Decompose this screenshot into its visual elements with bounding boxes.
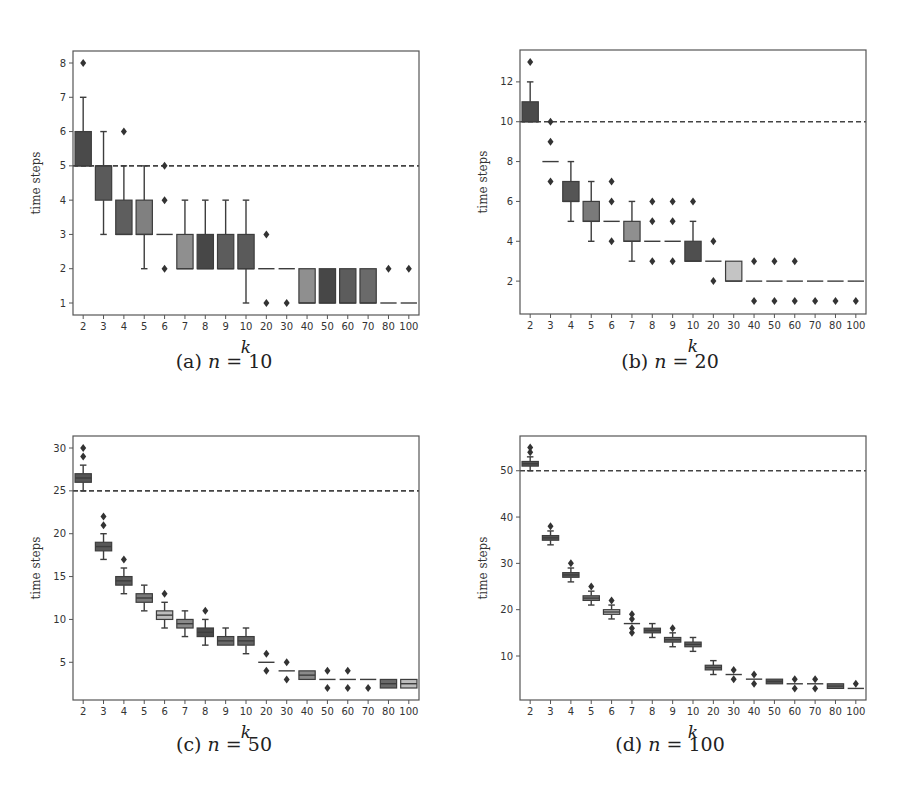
outlier-marker xyxy=(812,675,818,683)
x-tick-label: 30 xyxy=(727,706,740,717)
x-tick-label: 6 xyxy=(608,706,614,717)
y-axis-label: time steps xyxy=(29,152,43,215)
box-k-30 xyxy=(726,666,742,683)
x-tick-label: 7 xyxy=(629,706,635,717)
x-tick-label: 9 xyxy=(669,706,675,717)
y-tick-label: 4 xyxy=(60,195,66,206)
box-k-50 xyxy=(319,667,335,692)
outlier-marker xyxy=(162,196,168,204)
outlier-marker xyxy=(792,684,798,692)
outlier-marker xyxy=(670,257,676,265)
outlier-marker xyxy=(670,624,676,632)
x-tick-label: 40 xyxy=(748,706,761,717)
outlier-marker xyxy=(609,237,615,245)
x-tick-label: 9 xyxy=(669,320,675,331)
outlier-marker xyxy=(202,607,208,615)
y-tick-label: 4 xyxy=(507,236,513,247)
outlier-marker xyxy=(853,297,859,305)
subplot-b: 24681012234567891020304050607080100ktime… xyxy=(476,50,866,356)
box-k-100 xyxy=(848,680,864,689)
x-tick-label: 100 xyxy=(846,320,865,331)
x-tick-label: 80 xyxy=(382,321,395,332)
outlier-marker xyxy=(792,257,798,265)
outlier-marker xyxy=(792,675,798,683)
outlier-marker xyxy=(263,650,269,658)
outlier-marker xyxy=(751,680,757,688)
outlier-marker xyxy=(284,299,290,307)
caption-var: n xyxy=(208,733,220,755)
x-tick-label: 100 xyxy=(846,706,865,717)
outlier-marker xyxy=(324,667,330,675)
x-tick-label: 30 xyxy=(280,706,293,717)
x-tick-label: 6 xyxy=(161,706,167,717)
box-k-7 xyxy=(624,201,640,261)
y-tick-label: 5 xyxy=(60,657,66,668)
box-k-100 xyxy=(401,265,417,303)
outlier-marker xyxy=(162,265,168,273)
outlier-marker xyxy=(629,624,635,632)
x-tick-label: 30 xyxy=(280,321,293,332)
x-tick-label: 3 xyxy=(547,706,553,717)
caption-var: n xyxy=(654,350,666,372)
x-tick-label: 40 xyxy=(301,706,314,717)
y-axis-label: time steps xyxy=(29,537,43,600)
x-tick-label: 70 xyxy=(809,706,822,717)
box-k-5 xyxy=(136,166,152,269)
x-tick-label: 4 xyxy=(568,320,574,331)
outlier-marker xyxy=(345,667,351,675)
outlier-marker xyxy=(629,610,635,618)
x-tick-label: 40 xyxy=(301,321,314,332)
box-k-5 xyxy=(583,182,599,242)
box-k-9 xyxy=(665,197,681,265)
outlier-marker xyxy=(324,684,330,692)
x-tick-label: 10 xyxy=(240,321,253,332)
outlier-marker xyxy=(162,590,168,598)
box-k-7 xyxy=(177,611,193,637)
outlier-marker xyxy=(649,197,655,205)
y-tick-label: 5 xyxy=(60,160,66,171)
x-tick-label: 8 xyxy=(649,706,655,717)
x-tick-label: 70 xyxy=(809,320,822,331)
outlier-marker xyxy=(609,596,615,604)
outlier-marker xyxy=(731,675,737,683)
outlier-marker xyxy=(548,178,554,186)
x-tick-label: 3 xyxy=(547,320,553,331)
box-k-40 xyxy=(299,671,315,680)
box-k-80 xyxy=(827,281,843,305)
box-k-60 xyxy=(340,269,356,303)
outlier-marker xyxy=(527,58,533,66)
outlier-marker xyxy=(710,277,716,285)
x-tick-label: 10 xyxy=(687,320,700,331)
caption-b: (b) n = 20 xyxy=(520,350,820,372)
outlier-marker xyxy=(80,453,86,461)
x-tick-label: 100 xyxy=(399,706,418,717)
x-tick-label: 8 xyxy=(202,321,208,332)
box-k-30 xyxy=(279,269,295,307)
y-tick-label: 1 xyxy=(60,298,66,309)
outlier-marker xyxy=(162,162,168,170)
outlier-marker xyxy=(345,684,351,692)
caption-eq: = xyxy=(226,350,248,372)
y-tick-label: 30 xyxy=(500,558,513,569)
box-k-6 xyxy=(156,590,172,628)
box-k-10 xyxy=(685,637,701,651)
x-tick-label: 2 xyxy=(527,706,533,717)
outlier-marker xyxy=(548,138,554,146)
box-k-60 xyxy=(787,257,803,305)
box-k-4 xyxy=(116,555,132,593)
outlier-marker xyxy=(385,265,391,273)
y-tick-label: 6 xyxy=(60,126,66,137)
box-k-4 xyxy=(116,128,132,235)
outlier-marker xyxy=(80,59,86,67)
y-tick-label: 10 xyxy=(53,614,66,625)
x-tick-label: 3 xyxy=(100,706,106,717)
outlier-marker xyxy=(609,197,615,205)
box-k-6 xyxy=(603,178,619,246)
x-tick-label: 8 xyxy=(202,706,208,717)
x-tick-label: 80 xyxy=(382,706,395,717)
subplot-d: 1020304050234567891020304050607080100kti… xyxy=(476,436,866,742)
x-tick-label: 3 xyxy=(100,321,106,332)
box-k-20 xyxy=(705,237,721,285)
x-tick-label: 60 xyxy=(341,321,354,332)
outlier-marker xyxy=(670,197,676,205)
